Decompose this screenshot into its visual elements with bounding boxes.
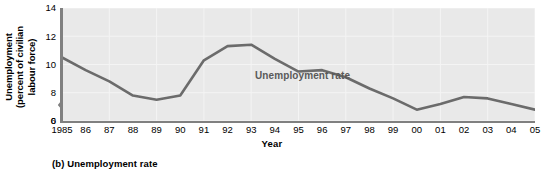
x-axis-tick-label: 94: [270, 124, 281, 135]
x-axis-tick-label: 95: [293, 124, 304, 135]
y-axis-line: [60, 8, 63, 121]
x-axis-tick-label: 91: [199, 124, 210, 135]
x-axis-tick-label: 00: [411, 124, 422, 135]
plot-area: Unemployment rate: [62, 8, 535, 121]
unemployment-rate-figure: Unemployment (percent of civilian labour…: [0, 0, 544, 175]
x-axis-tick-label: 03: [482, 124, 493, 135]
gridlines: [62, 8, 535, 121]
x-axis-tick-label: 04: [506, 124, 517, 135]
x-axis-tick-label: 02: [459, 124, 470, 135]
y-axis-tick-label: 10: [36, 60, 56, 70]
x-axis-tick-label: 87: [104, 124, 115, 135]
x-axis-tick-label: 89: [151, 124, 162, 135]
chart-svg: [62, 8, 535, 121]
y-axis-title: Unemployment (percent of civilian labour…: [0, 2, 40, 132]
x-axis-title: Year: [0, 138, 544, 149]
x-axis-line: [60, 121, 535, 124]
x-axis-tick-labels: 1985868788899091929394959697989900010203…: [62, 124, 535, 138]
y-axis-title-line-2: (percent of civilian: [14, 26, 26, 108]
x-axis-tick-label: 86: [80, 124, 91, 135]
x-axis-tick-label: 05: [530, 124, 541, 135]
series-annotation-label: Unemployment rate: [255, 70, 350, 81]
x-axis-tick-label: 01: [435, 124, 446, 135]
x-axis-tick-label: 96: [317, 124, 328, 135]
figure-caption: (b) Unemployment rate: [52, 158, 158, 169]
y-axis-tick-label: 12: [36, 32, 56, 42]
x-axis-tick-label: 88: [128, 124, 139, 135]
y-axis-title-line-1: Unemployment: [3, 26, 15, 108]
y-axis-tick-label: 14: [36, 3, 56, 13]
x-axis-tick-label: 90: [175, 124, 186, 135]
x-axis-tick-label: 92: [222, 124, 233, 135]
x-axis-tick-label: 1985: [51, 124, 72, 135]
x-axis-tick-label: 93: [246, 124, 257, 135]
x-axis-tick-label: 99: [388, 124, 399, 135]
x-axis-tick-label: 97: [341, 124, 352, 135]
x-axis-tick-label: 98: [364, 124, 375, 135]
